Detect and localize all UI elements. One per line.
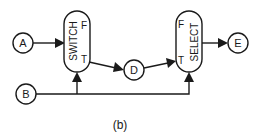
node-b: B xyxy=(16,84,36,104)
arrowhead-b-to-select xyxy=(184,72,194,82)
figure-caption: (b) xyxy=(113,118,128,132)
node-e: E xyxy=(228,33,248,53)
switch-port-true: T xyxy=(81,54,87,65)
select-label: SELECT xyxy=(189,23,200,62)
node-e-label: E xyxy=(234,37,241,49)
select-port-false: F xyxy=(178,19,184,30)
dataflow-diagram: SWITCH F T SELECT F T A B D E (b) xyxy=(0,0,264,138)
arrowhead-b-to-switch xyxy=(72,72,82,82)
switch-port-false: F xyxy=(81,20,87,31)
arrowhead-select-to-e xyxy=(218,38,228,48)
edge-d-to-select xyxy=(144,63,168,68)
node-d: D xyxy=(124,60,144,80)
arrowhead-switch-to-d xyxy=(113,62,124,72)
arrowhead-d-to-select xyxy=(166,58,176,68)
node-b-label: B xyxy=(22,88,29,100)
node-a-label: A xyxy=(19,37,27,49)
edge-switch-to-d xyxy=(89,62,116,68)
select-box: SELECT F T xyxy=(176,11,202,72)
edge-b-control-bus xyxy=(36,80,189,94)
node-a: A xyxy=(13,33,33,53)
switch-label: SWITCH xyxy=(68,21,79,60)
switch-box: SWITCH F T xyxy=(64,11,90,72)
node-d-label: D xyxy=(130,64,138,76)
select-port-true: T xyxy=(178,55,184,66)
